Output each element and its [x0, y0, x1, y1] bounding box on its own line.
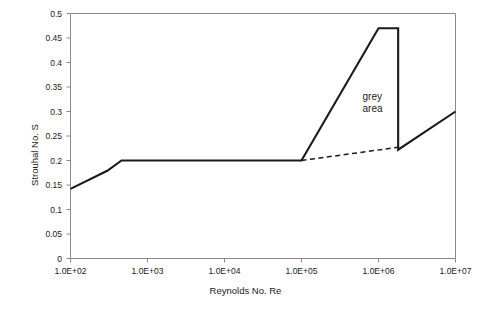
- y-tick-marks: [67, 14, 71, 259]
- x-tick-label: 1.0E+05: [286, 266, 318, 276]
- y-tick-label: 0.15: [22, 180, 62, 190]
- series-line-solid: [71, 28, 456, 189]
- x-tick-label: 1.0E+02: [55, 266, 87, 276]
- grey-area-annotation: grey area: [363, 91, 383, 116]
- y-tick-label: 0.3: [22, 107, 62, 117]
- chart-figure: 00.050.10.150.20.250.30.350.40.450.5 1.0…: [0, 0, 491, 309]
- y-tick-label: 0.2: [22, 156, 62, 166]
- y-tick-label: 0.25: [22, 131, 62, 141]
- x-tick-label: 1.0E+04: [209, 266, 241, 276]
- grey-area-annotation-line1: grey: [363, 91, 383, 104]
- y-tick-label: 0.1: [22, 205, 62, 215]
- y-tick-label: 0.4: [22, 58, 62, 68]
- grey-area-annotation-line2: area: [363, 103, 383, 116]
- y-tick-label: 0.35: [22, 82, 62, 92]
- y-tick-label: 0.05: [22, 229, 62, 239]
- x-tick-marks: [71, 259, 456, 263]
- series-line-dashed: [302, 147, 399, 160]
- plot-canvas: [0, 0, 491, 309]
- y-axis-title: Strouhal No. S: [29, 124, 40, 186]
- y-tick-label: 0: [22, 254, 62, 264]
- x-tick-label: 1.0E+06: [363, 266, 395, 276]
- y-tick-label: 0.5: [22, 9, 62, 19]
- x-axis-title: Reynolds No. Re: [0, 285, 491, 296]
- y-tick-label: 0.45: [22, 33, 62, 43]
- x-tick-label: 1.0E+07: [440, 266, 472, 276]
- x-tick-label: 1.0E+03: [132, 266, 164, 276]
